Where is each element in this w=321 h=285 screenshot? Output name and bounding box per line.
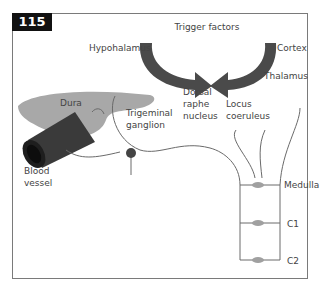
label-locus: Locus [226,99,252,109]
trigeminal-ganglion-icon [126,148,136,158]
label-trigeminal: Trigeminal [125,108,173,118]
label-raphe: raphe [183,99,210,109]
title-trigger-factors: Trigger factors [174,22,240,32]
label-dura: Dura [60,98,82,108]
label-coeruleus: coeruleus [226,111,270,121]
label-nucleus: nucleus [183,111,218,121]
label-medulla: Medulla [284,180,319,190]
label-cortex: Cortex [277,43,307,53]
label-c1: C1 [287,219,299,229]
migraine-pathway-diagram: Trigger factors Hypohalamus Cortex Thala… [0,0,321,285]
label-blood: Blood [24,166,49,176]
label-thalamus: Thalamus [263,71,308,81]
label-dorsal: Dorsal [183,87,212,97]
neuron-icons [252,182,264,263]
label-vessel: vessel [24,178,52,188]
label-ganglion: ganglion [126,120,165,130]
label-hypothalamus: Hypohalamus [89,43,151,53]
label-c2: C2 [287,256,299,266]
